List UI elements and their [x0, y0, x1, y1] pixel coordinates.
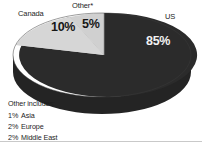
pie-label-us: US [165, 13, 175, 21]
footnote-europe-name: Europe [21, 122, 44, 131]
bottom-divider [0, 141, 202, 142]
pie-label-other: Other* [72, 2, 93, 10]
footnote-block: Other includes: 1%Asia 2%Europe 2%Middle… [8, 99, 128, 144]
footnote-row-asia: 1%Asia [8, 111, 128, 120]
footnote-row-europe: 2%Europe [8, 122, 128, 131]
pie-value-us: 85% [146, 35, 170, 48]
pie-label-canada: Canada [18, 10, 44, 18]
pie-value-other: 5% [82, 18, 99, 31]
footnote-europe-pct: 2% [8, 122, 21, 131]
pie-chart: Canada Other* US 10% 5% 85% Other includ… [0, 0, 202, 144]
footnote-asia-pct: 1% [8, 111, 21, 120]
pie-value-canada: 10% [51, 21, 75, 34]
footnote-title: Other includes: [8, 99, 128, 108]
footnote-asia-name: Asia [21, 111, 35, 120]
